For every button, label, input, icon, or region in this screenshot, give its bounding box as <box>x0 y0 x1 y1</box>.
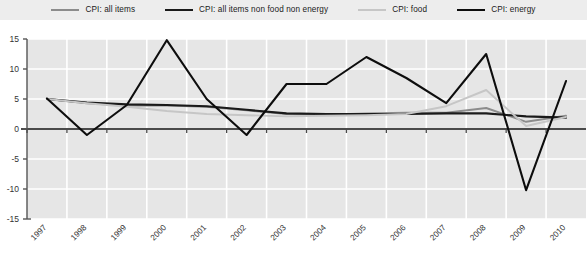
legend-item-cpi-all-items: CPI: all items <box>51 6 135 14</box>
x-tick-label: 2001 <box>189 223 209 243</box>
x-tick-label: 2000 <box>149 223 169 243</box>
x-tick-label: 2008 <box>468 223 488 243</box>
y-tick-labels-group: 151050-5-10-15 <box>7 34 20 224</box>
chart-caption <box>150 251 570 257</box>
legend-swatch-cpi-food <box>358 9 386 11</box>
legend-label-cpi-food: CPI: food <box>392 6 427 14</box>
x-tick-label: 2010 <box>548 223 568 243</box>
plot-area-wrapper: 151050-5-10-15 1997199819992000200120022… <box>0 20 587 257</box>
legend-label-cpi-all-items-non-food-non-energy: CPI: all items non food non energy <box>199 6 328 14</box>
x-tick-label: 1997 <box>29 223 49 243</box>
y-tick-label: -15 <box>7 214 20 224</box>
y-tick-label: 0 <box>14 124 19 134</box>
legend-swatch-cpi-energy <box>457 9 485 11</box>
x-tick-label: 2003 <box>269 223 289 243</box>
chart-legend: CPI: all items CPI: all items non food n… <box>0 0 587 20</box>
x-tick-label: 2009 <box>508 223 528 243</box>
legend-item-cpi-food: CPI: food <box>358 6 427 14</box>
legend-swatch-cpi-all-items <box>51 9 79 11</box>
legend-label-cpi-all-items: CPI: all items <box>85 6 135 14</box>
y-tick-label: -10 <box>7 184 20 194</box>
x-tick-label: 1999 <box>109 223 129 243</box>
legend-label-cpi-energy: CPI: energy <box>491 6 535 14</box>
x-tick-label: 2006 <box>388 223 408 243</box>
legend-item-cpi-all-items-non-food-non-energy: CPI: all items non food non energy <box>165 6 328 14</box>
x-tick-labels-group: 1997199819992000200120022003200420052006… <box>29 223 568 243</box>
y-tick-label: -5 <box>11 154 19 164</box>
legend-item-cpi-energy: CPI: energy <box>457 6 535 14</box>
x-tick-label: 2002 <box>229 223 249 243</box>
chart-root: CPI: all items CPI: all items non food n… <box>0 0 587 257</box>
x-tick-label: 2005 <box>349 223 369 243</box>
x-tick-label: 2004 <box>309 223 329 243</box>
x-tick-label: 2007 <box>428 223 448 243</box>
legend-swatch-cpi-all-items-non-food-non-energy <box>165 9 193 11</box>
y-tick-label: 10 <box>10 64 20 74</box>
line-chart-svg: 151050-5-10-15 1997199819992000200120022… <box>0 20 587 257</box>
y-tick-label: 5 <box>14 94 19 104</box>
x-tick-label: 1998 <box>69 223 89 243</box>
y-tick-label: 15 <box>10 34 20 44</box>
